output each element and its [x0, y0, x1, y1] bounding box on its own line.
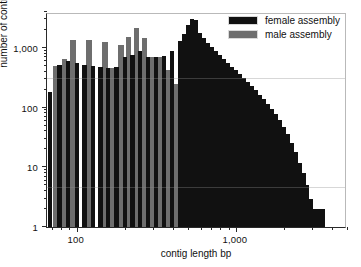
x-tick-minor [211, 227, 212, 230]
y-tick-minor [44, 184, 47, 185]
x-tick-label: 1,000 [205, 234, 265, 245]
x-tick-minor [61, 227, 62, 230]
guide-line [47, 187, 345, 188]
x-tick-major [236, 227, 237, 232]
chart-legend: female assembly male assembly [228, 15, 340, 43]
y-tick-label: 100 [0, 103, 38, 114]
x-tick-minor [347, 227, 348, 230]
x-tick-minor [201, 227, 202, 230]
legend-item-male: male assembly [228, 29, 340, 40]
bar [98, 67, 102, 227]
y-tick-minor [44, 50, 47, 51]
x-tick-minor [312, 227, 313, 230]
x-tick-label: 100 [46, 234, 106, 245]
legend-label-female: female assembly [265, 15, 340, 26]
y-tick-minor [44, 65, 47, 66]
bar [82, 65, 86, 227]
bar [106, 68, 110, 227]
y-tick-minor [44, 60, 47, 61]
y-tick-minor [44, 148, 47, 149]
y-tick-major [42, 166, 47, 167]
y-tick-minor [44, 53, 47, 54]
bar [130, 55, 134, 227]
y-tick-label: 10 [0, 162, 38, 173]
x-tick-minor [125, 227, 126, 230]
bar [75, 63, 79, 227]
x-tick-minor [69, 227, 70, 230]
y-tick-minor [44, 109, 47, 110]
y-tick-minor [44, 56, 47, 57]
y-tick-major [42, 47, 47, 48]
bar [48, 92, 52, 227]
legend-item-female: female assembly [228, 15, 340, 26]
y-tick-minor [44, 120, 47, 121]
y-tick-minor [44, 112, 47, 113]
y-tick-minor [44, 11, 47, 12]
x-axis-title: contig length bp [46, 248, 346, 259]
y-tick-minor [44, 180, 47, 181]
y-tick-minor [44, 29, 47, 30]
y-tick-minor [44, 138, 47, 139]
bar [114, 67, 118, 227]
bar [57, 65, 61, 227]
y-tick-minor [44, 208, 47, 209]
x-tick-minor [284, 227, 285, 230]
x-tick-major [77, 227, 78, 232]
y-tick-label: 1,000 [0, 43, 38, 54]
y-tick-minor [44, 116, 47, 117]
bar [91, 66, 95, 227]
y-tick-major [42, 107, 47, 108]
y-tick-minor [44, 18, 47, 19]
y-tick-minor [44, 130, 47, 131]
series-female-assembly [47, 14, 345, 227]
y-tick-minor [44, 71, 47, 72]
x-tick-minor [52, 227, 53, 230]
y-tick-minor [44, 78, 47, 79]
y-tick-label: 1 [0, 222, 38, 233]
plot-area [47, 14, 345, 227]
bar [154, 57, 158, 227]
x-tick-minor [173, 227, 174, 230]
x-tick-minor [229, 227, 230, 230]
y-tick-minor [44, 89, 47, 90]
legend-swatch-female-icon [228, 16, 258, 25]
legend-swatch-male-icon [228, 30, 258, 39]
bar [123, 57, 127, 227]
contig-length-histogram-figure: number of contigs 1101001,000 1001,000 c… [0, 0, 361, 267]
x-tick-minor [188, 227, 189, 230]
y-tick-minor [44, 176, 47, 177]
y-tick-minor [44, 169, 47, 170]
bar [146, 57, 150, 227]
y-tick-minor [44, 190, 47, 191]
y-tick-minor [44, 125, 47, 126]
legend-label-male: male assembly [265, 29, 332, 40]
guide-line [47, 78, 345, 79]
x-tick-minor [220, 227, 221, 230]
bar [170, 51, 174, 227]
y-tick-minor [44, 198, 47, 199]
bar [321, 209, 325, 227]
bar [66, 61, 70, 227]
y-tick-major [42, 226, 47, 227]
bar [162, 56, 166, 227]
y-tick-minor [44, 172, 47, 173]
x-tick-minor [332, 227, 333, 230]
x-tick-minor [153, 227, 154, 230]
plot-frame [46, 13, 346, 228]
